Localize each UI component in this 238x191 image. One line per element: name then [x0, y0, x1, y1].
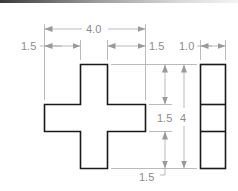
dim-right-arm: 1.5	[149, 40, 164, 52]
dim-left-arm: 1.5	[21, 40, 36, 52]
dim-upper-arm-height: 1.5	[157, 112, 172, 124]
dimension-lines	[40, 29, 226, 175]
technical-drawing: 4.0 1.5 1.5 1.0 1.5 4 1.5	[0, 0, 238, 191]
side-view	[201, 65, 226, 169]
dim-overall-height: 4	[180, 112, 186, 124]
dim-side-thickness: 1.0	[179, 40, 194, 52]
front-view-cross	[45, 65, 146, 169]
dim-lower-arm: 1.5	[139, 171, 154, 183]
dim-overall-width: 4.0	[86, 23, 101, 35]
